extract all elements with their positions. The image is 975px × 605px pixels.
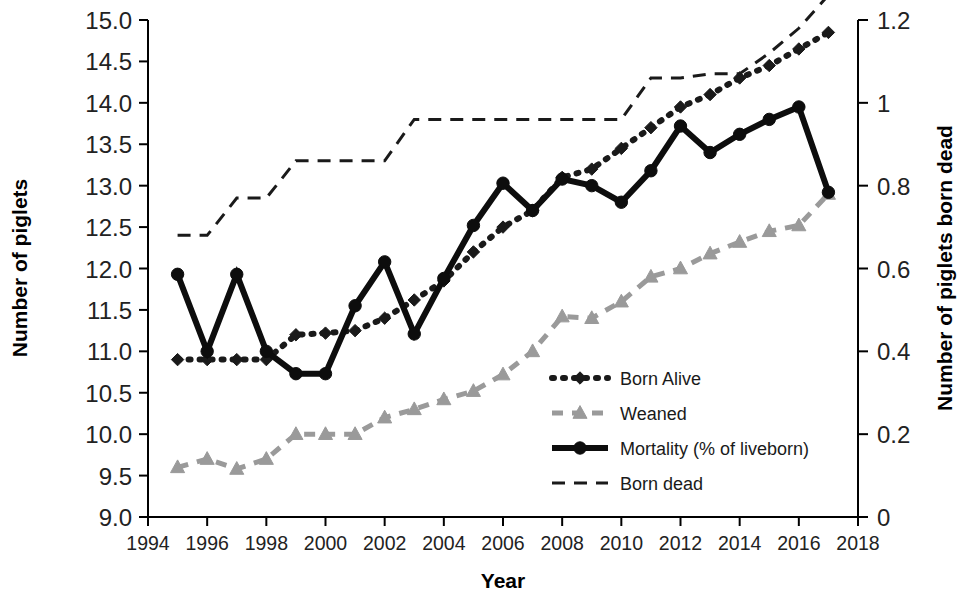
left-axis-tick-label: 11.0	[87, 338, 132, 365]
x-axis-tick-label: 2008	[540, 532, 583, 554]
left-axis-tick-label: 13.5	[85, 131, 132, 158]
data-point-marker	[349, 300, 361, 312]
chart-legend: Born AliveWeanedMortality (% of liveborn…	[552, 369, 809, 494]
x-axis-tick-label: 1998	[245, 532, 288, 554]
data-point-marker	[231, 353, 243, 365]
data-point-marker	[733, 128, 745, 140]
data-point-marker	[408, 328, 420, 340]
legend-item-label: Born dead	[620, 474, 703, 494]
right-axis-tick-label: 0	[877, 504, 890, 531]
data-point-marker	[290, 367, 302, 379]
x-axis-tick-label: 2010	[600, 532, 644, 554]
series-mortality-of-liveborn	[171, 101, 834, 380]
data-point-marker	[704, 146, 716, 158]
right-axis-tick-label: 0.2	[877, 421, 910, 448]
x-axis-tick-label: 2000	[304, 532, 348, 554]
left-axis-tick-label: 9.5	[99, 463, 132, 490]
x-axis-tick-label: 2012	[659, 532, 702, 554]
data-point-marker	[378, 256, 390, 268]
data-point-marker	[171, 353, 183, 365]
data-point-marker	[438, 272, 450, 284]
data-point-marker	[763, 59, 775, 71]
data-point-marker	[526, 204, 538, 216]
data-point-marker	[793, 101, 805, 113]
data-point-marker	[645, 121, 657, 133]
x-axis-tick-label: 2014	[718, 532, 762, 554]
x-axis-tick-label: 2018	[836, 532, 879, 554]
left-axis-tick-label: 14.5	[85, 48, 132, 75]
x-axis-tick-label: 2004	[422, 532, 466, 554]
x-axis-tick-label: 2016	[777, 532, 820, 554]
right-axis-tick-label: 0.4	[877, 338, 910, 365]
legend-swatch-marker	[574, 442, 586, 454]
right-axis-tick-label: 1	[877, 90, 890, 117]
x-axis-tick-label: 2002	[363, 532, 406, 554]
series-born-dead	[178, 0, 829, 235]
data-point-marker	[201, 345, 213, 357]
chart-figure: 9.09.510.010.511.011.512.012.513.013.514…	[0, 0, 975, 605]
data-point-marker	[408, 294, 420, 306]
left-axis-tick-label: 12.0	[85, 256, 132, 283]
data-point-marker	[437, 392, 451, 405]
legend-item: Weaned	[552, 404, 687, 424]
legend-item: Born Alive	[552, 369, 701, 389]
data-point-marker	[497, 177, 509, 189]
data-point-marker	[555, 309, 569, 322]
left-axis-tick-label: 10.0	[85, 421, 132, 448]
data-point-marker	[556, 173, 568, 185]
data-point-marker	[674, 120, 686, 132]
data-point-marker	[763, 113, 775, 125]
data-point-marker	[586, 179, 598, 191]
left-axis-tick-label: 13.0	[85, 173, 132, 200]
series-line	[178, 107, 829, 374]
right-axis-title: Number of piglets born dead	[933, 125, 956, 411]
data-point-marker	[822, 186, 834, 198]
data-point-marker	[615, 196, 627, 208]
data-point-marker	[674, 101, 686, 113]
left-axis-tick-label: 15.0	[85, 7, 132, 34]
data-point-marker	[349, 324, 361, 336]
left-axis-tick-label: 14.0	[85, 90, 132, 117]
data-point-marker	[645, 165, 657, 177]
x-axis-tick-label: 2006	[481, 532, 524, 554]
data-point-marker	[319, 327, 331, 339]
data-point-marker	[496, 367, 510, 380]
right-axis-tick-label: 0.6	[877, 256, 910, 283]
data-point-marker	[289, 427, 303, 440]
legend-item-label: Weaned	[620, 404, 687, 424]
legend-swatch-marker	[574, 372, 586, 384]
legend-item-label: Born Alive	[620, 369, 701, 389]
right-axis-tick-label: 1.2	[877, 7, 910, 34]
right-axis-tick-label: 0.8	[877, 173, 910, 200]
data-point-marker	[704, 88, 716, 100]
data-point-marker	[260, 345, 272, 357]
data-point-marker	[378, 312, 390, 324]
data-point-marker	[574, 442, 586, 454]
series-born-alive	[171, 26, 834, 366]
legend-item: Born dead	[552, 474, 703, 494]
chart-svg: 9.09.510.010.511.011.512.012.513.013.514…	[0, 0, 975, 605]
left-axis-tick-label: 12.5	[85, 214, 132, 241]
data-point-marker	[171, 268, 183, 280]
left-axis-tick-label: 9.0	[99, 504, 132, 531]
series-line	[178, 194, 829, 469]
left-axis-tick-label: 11.5	[87, 297, 132, 324]
data-point-marker	[231, 268, 243, 280]
data-point-marker	[574, 372, 586, 384]
x-axis-title: Year	[481, 569, 525, 592]
data-point-marker	[733, 235, 747, 248]
legend-item: Mortality (% of liveborn)	[552, 439, 809, 459]
legend-item-label: Mortality (% of liveborn)	[620, 439, 809, 459]
left-axis-tick-label: 10.5	[85, 380, 132, 407]
data-point-marker	[319, 367, 331, 379]
data-point-marker	[467, 246, 479, 258]
series-line	[178, 0, 829, 235]
data-point-marker	[467, 219, 479, 231]
data-point-marker	[526, 344, 540, 357]
x-axis-tick-label: 1994	[126, 532, 170, 554]
x-axis-tick-label: 1996	[185, 532, 228, 554]
series-line	[178, 32, 829, 359]
left-axis-title: Number of piglets	[8, 179, 31, 358]
